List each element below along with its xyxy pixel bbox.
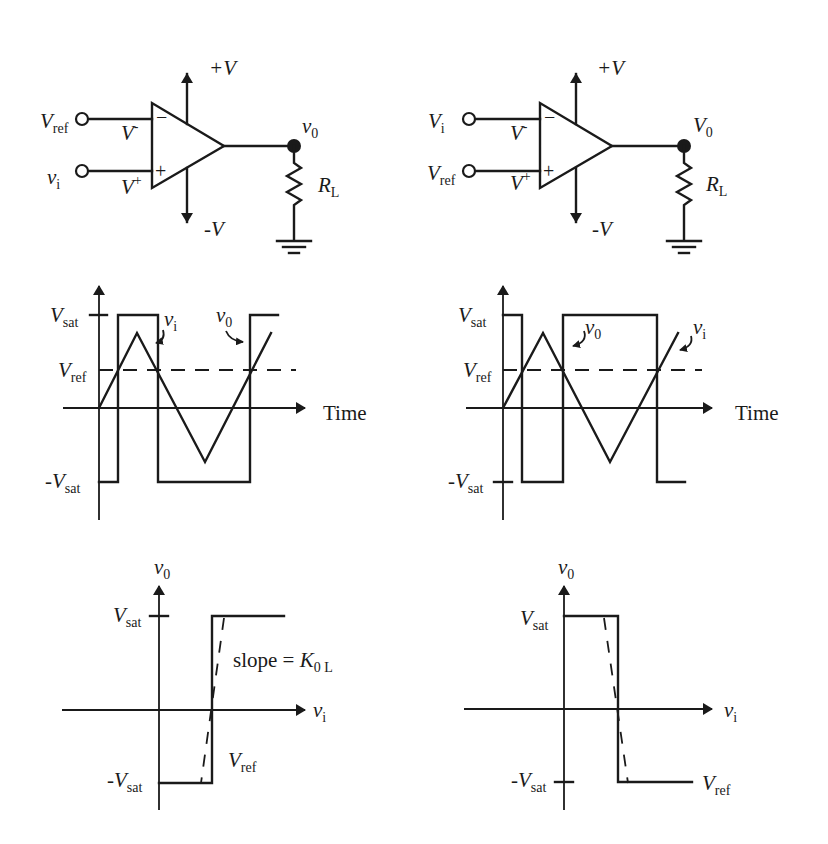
ideal-transfer-curve <box>564 616 692 782</box>
noninv-pin-label: V+ <box>121 173 142 199</box>
neg-vsat-label: -Vsat <box>45 469 80 496</box>
right-transfer-plot: v0 vi Vsat -Vsat Vref <box>464 555 737 810</box>
vsat-label: Vsat <box>113 603 141 630</box>
comparator-figure: − + Vref vi V- V+ +V -V v0 RL − + Vi Vre… <box>0 0 828 844</box>
right-opamp-circuit: − + Vi Vref V- V+ +V -V V0 RL <box>427 56 727 253</box>
vi-label: vi <box>164 307 177 334</box>
resistor-icon <box>677 146 691 240</box>
load-label: RL <box>317 173 339 200</box>
right-waveform-plot: Vsat Vref -Vsat Time v0 vi <box>448 286 779 520</box>
left-transfer-plot: v0 vi Vsat -Vsat Vref slope = K0 L <box>62 555 333 810</box>
vo-axis-label: v0 <box>154 555 170 582</box>
neg-vsat-label: -Vsat <box>511 768 546 795</box>
output-label: V0 <box>693 113 713 140</box>
input-bottom-label: Vref <box>427 161 456 188</box>
vo-pointer-arrow-icon <box>573 331 585 346</box>
time-axis-label: Time <box>735 401 779 425</box>
input-terminal-icon <box>76 165 88 177</box>
vi-pointer-arrow-icon <box>680 336 692 350</box>
noninv-sign: + <box>543 160 554 182</box>
noninv-sign: + <box>155 160 166 182</box>
inv-sign: − <box>544 106 555 128</box>
neg-supply-label: -V <box>592 217 614 241</box>
pos-supply-label: +V <box>209 56 238 80</box>
left-opamp-circuit: − + Vref vi V- V+ +V -V v0 RL <box>40 56 339 253</box>
vo-pointer-arrow-icon <box>226 331 243 342</box>
vsat-label: Vsat <box>520 606 548 633</box>
load-label: RL <box>705 172 727 199</box>
input-terminal-icon <box>463 165 475 177</box>
input-terminal-icon <box>463 113 475 125</box>
inv-pin-label: V- <box>510 119 528 145</box>
pos-supply-label: +V <box>597 56 626 80</box>
neg-supply-label: -V <box>204 217 226 241</box>
vo-label: v0 <box>585 315 601 342</box>
vo-square-wave <box>99 315 278 482</box>
vsat-label: Vsat <box>50 303 78 330</box>
vi-axis-label: vi <box>724 698 737 725</box>
noninv-pin-label: V+ <box>510 169 531 195</box>
vi-triangle-wave <box>99 333 271 462</box>
left-waveform-plot: Vsat Vref -Vsat Time vi v0 <box>45 286 367 520</box>
neg-vsat-label: -Vsat <box>448 469 483 496</box>
vref-label: Vref <box>58 358 87 385</box>
vref-label: Vref <box>228 748 257 775</box>
resistor-icon <box>287 146 301 240</box>
output-label: v0 <box>302 114 318 141</box>
vi-axis-label: vi <box>313 698 326 725</box>
slope-annotation: slope = K0 L <box>233 648 333 675</box>
vsat-label: Vsat <box>458 303 486 330</box>
inv-pin-label: V- <box>121 119 139 145</box>
vi-label: vi <box>693 315 706 342</box>
inv-sign: − <box>156 106 167 128</box>
input-bottom-label: vi <box>47 165 60 192</box>
neg-vsat-label: -Vsat <box>107 768 142 795</box>
vref-label: Vref <box>463 358 492 385</box>
input-top-label: Vi <box>428 109 445 136</box>
vo-label: v0 <box>216 303 232 330</box>
slope-dashed-line <box>604 618 628 783</box>
vref-label: Vref <box>702 771 731 798</box>
vi-triangle-wave <box>503 333 678 462</box>
time-axis-label: Time <box>323 401 367 425</box>
vo-axis-label: v0 <box>558 555 574 582</box>
input-terminal-icon <box>76 113 88 125</box>
input-top-label: Vref <box>40 109 69 136</box>
